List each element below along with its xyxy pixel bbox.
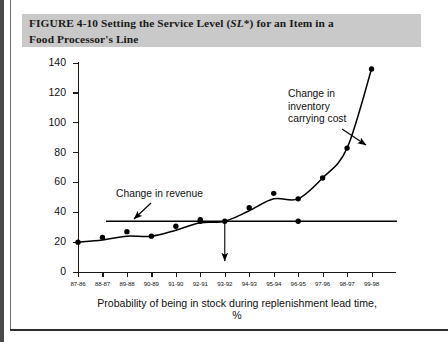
data-point [295, 219, 300, 224]
data-point [369, 66, 374, 71]
data-point [100, 235, 105, 240]
data-point [198, 219, 203, 224]
chart-overlay [0, 0, 448, 342]
inventory-carrying-cost-curve [78, 69, 372, 242]
data-point [344, 145, 349, 150]
cost-leader-arrow [342, 129, 366, 145]
revenue-leader-arrow [134, 203, 151, 219]
figure-page: FIGURE 4-10 Setting the Service Level (S… [0, 0, 448, 342]
data-point [247, 205, 252, 210]
data-point [320, 175, 325, 180]
data-point [295, 196, 300, 201]
data-point [173, 224, 178, 229]
data-point [222, 219, 227, 224]
data-point [124, 229, 129, 234]
data-point [75, 239, 80, 244]
data-point [149, 233, 154, 238]
data-point [271, 191, 276, 196]
